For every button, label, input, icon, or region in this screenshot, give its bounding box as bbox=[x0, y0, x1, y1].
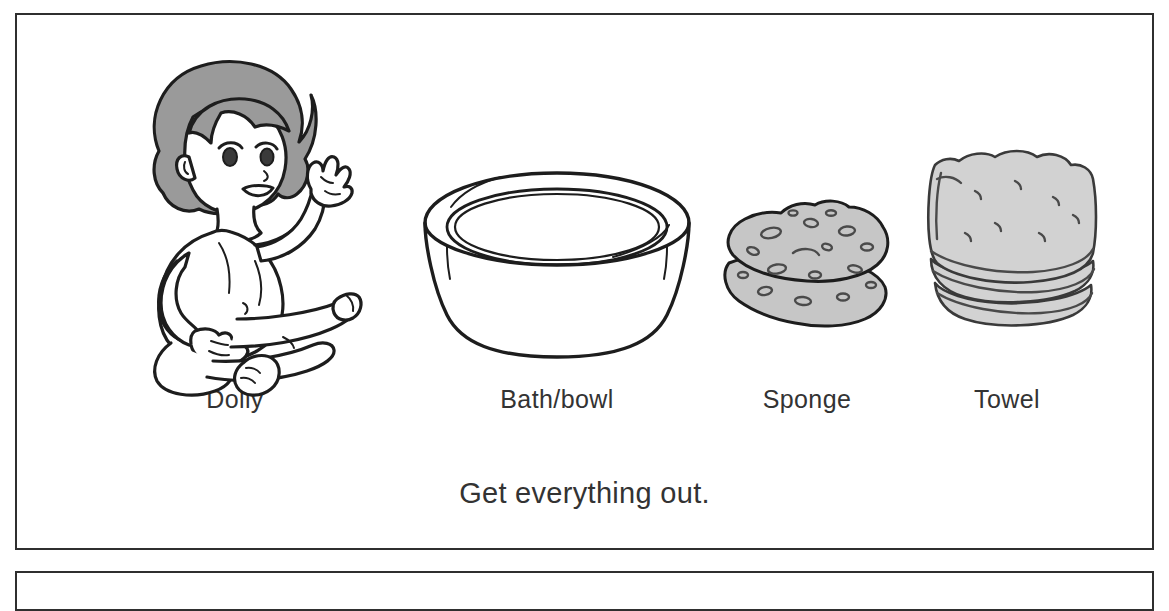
item-bathbowl: Bath/bowl bbox=[417, 47, 697, 412]
baby-doll-figure-icon bbox=[115, 47, 355, 387]
sponge-illustration bbox=[707, 47, 907, 387]
item-towel: Towel bbox=[907, 47, 1107, 412]
panel-caption: Get everything out. bbox=[17, 477, 1152, 510]
next-panel bbox=[15, 571, 1154, 611]
item-label-dolly: Dolly bbox=[115, 387, 355, 412]
item-sponge: Sponge bbox=[707, 47, 907, 412]
item-label-sponge: Sponge bbox=[707, 387, 907, 412]
folded-towel-icon bbox=[907, 47, 1107, 387]
folded-towel-illustration bbox=[907, 47, 1107, 387]
items-row: Dolly bbox=[17, 15, 1152, 548]
item-dolly: Dolly bbox=[115, 47, 355, 412]
sponge-icon bbox=[707, 47, 907, 387]
item-label-towel: Towel bbox=[907, 387, 1107, 412]
bath-basin-icon bbox=[417, 47, 697, 387]
instruction-panel: Dolly bbox=[15, 13, 1154, 550]
dolly-illustration bbox=[115, 47, 355, 387]
item-label-bathbowl: Bath/bowl bbox=[417, 387, 697, 412]
bath-basin-illustration bbox=[417, 47, 697, 387]
